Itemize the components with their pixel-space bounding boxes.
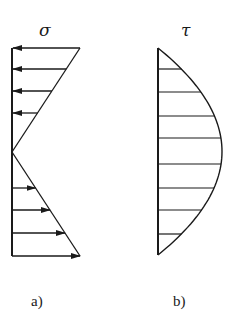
label-a: a) (31, 294, 43, 309)
sigma-symbol: σ (39, 22, 51, 39)
upper-envelope (12, 48, 80, 152)
parabola-curve (158, 48, 222, 255)
tau-symbol: τ (181, 22, 190, 39)
label-b: b) (173, 294, 186, 309)
normal-stress-diagram (12, 48, 80, 256)
shear-stress-diagram (158, 48, 222, 255)
lower-envelope (12, 152, 80, 256)
stress-distribution-diagram (0, 0, 229, 311)
